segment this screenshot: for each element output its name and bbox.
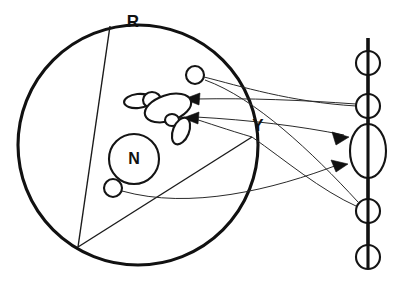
diagram-canvas: R Y N [0,0,403,284]
label-edge-point-Y: Y [252,116,264,135]
label-nucleus-N: N [128,150,140,167]
particle-upper [186,66,204,84]
ray-diagram-svg: R Y N [0,0,403,284]
label-outer-sphere-R: R [127,12,139,31]
particle-lower [104,179,122,197]
